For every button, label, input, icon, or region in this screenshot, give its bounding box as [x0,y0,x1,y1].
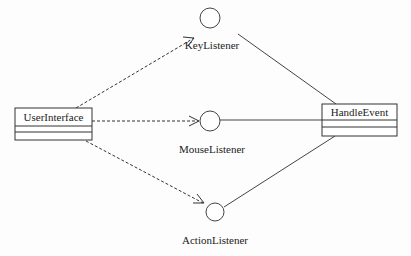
interface-circle-icon [200,8,220,28]
interface-circle-icon [206,203,224,221]
interface-circle-icon [200,111,220,131]
class-name: UserInterface [24,111,84,123]
interface-action-listener[interactable]: ActionListener [182,203,248,246]
interface-mouse-listener[interactable]: MouseListener [179,111,245,155]
class-name: HandleEvent [331,106,388,118]
uml-diagram: KeyListener MouseListener ActionListener… [0,0,411,256]
class-handle-event[interactable]: HandleEvent [322,104,397,136]
interface-label: ActionListener [182,234,248,246]
class-user-interface[interactable]: UserInterface [15,108,92,140]
interface-label: KeyListener [185,39,240,51]
key-realization-line [238,34,336,104]
key-dependency-line [76,38,194,108]
interface-label: MouseListener [179,143,245,155]
interface-key-listener[interactable]: KeyListener [185,8,240,51]
